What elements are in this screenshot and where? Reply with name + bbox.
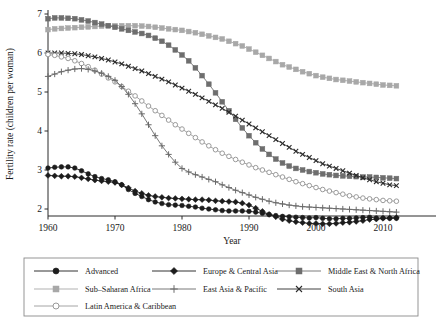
marker-filled-circle — [327, 216, 332, 221]
y-tick-label: 6 — [37, 48, 42, 58]
marker-open-circle — [220, 151, 225, 156]
marker-filled-diamond — [206, 197, 212, 203]
marker-open-circle — [186, 131, 191, 136]
marker-open-circle — [341, 192, 346, 197]
marker-filled-square — [340, 173, 345, 178]
marker-filled-square — [133, 30, 138, 35]
series-layer — [45, 16, 400, 227]
marker-filled-square — [139, 31, 144, 36]
marker-plus — [380, 208, 386, 214]
y-axis-title: Fertility rate (children per woman) — [5, 48, 16, 180]
marker-plus — [266, 198, 272, 204]
marker-open-circle — [59, 55, 64, 60]
marker-filled-square — [186, 58, 191, 63]
marker-filled-diamond — [79, 175, 85, 181]
marker-filled-square — [273, 59, 278, 64]
marker-filled-square — [294, 67, 299, 72]
marker-open-circle — [146, 104, 151, 109]
marker-filled-square — [206, 33, 211, 38]
marker-filled-square — [340, 78, 345, 83]
marker-filled-square — [394, 83, 399, 88]
marker-filled-diamond — [199, 197, 205, 203]
marker-filled-square — [146, 24, 151, 29]
marker-filled-circle — [86, 172, 91, 177]
marker-plus — [239, 190, 245, 196]
marker-filled-diamond — [119, 182, 125, 188]
marker-plus — [367, 207, 373, 213]
marker-filled-square — [106, 23, 111, 28]
marker-filled-square — [200, 73, 205, 78]
marker-plus — [152, 133, 158, 139]
marker-filled-square — [79, 25, 84, 30]
marker-filled-square — [334, 173, 339, 178]
marker-plus — [246, 192, 252, 198]
marker-open-circle — [79, 61, 84, 66]
marker-plus — [206, 176, 212, 182]
marker-open-circle — [253, 165, 258, 170]
y-tick-label: 4 — [37, 126, 42, 136]
marker-filled-diamond — [347, 219, 353, 225]
marker-filled-square — [93, 20, 98, 25]
marker-filled-circle — [160, 201, 165, 206]
marker-filled-square — [52, 16, 57, 21]
marker-filled-circle — [46, 166, 51, 171]
marker-open-circle — [287, 177, 292, 182]
marker-filled-square — [153, 36, 158, 41]
marker-open-circle — [394, 199, 399, 204]
marker-cross — [341, 168, 346, 173]
marker-open-circle — [227, 154, 232, 159]
marker-plus — [52, 71, 58, 77]
marker-filled-diamond — [333, 221, 339, 227]
series-east-asia-pacific — [45, 66, 400, 216]
marker-filled-square — [53, 286, 59, 292]
marker-plus — [373, 208, 379, 214]
marker-filled-square — [387, 83, 392, 88]
marker-filled-square — [287, 65, 292, 70]
marker-filled-square — [387, 176, 392, 181]
marker-plus — [233, 187, 239, 193]
y-tick-label: 2 — [37, 204, 42, 214]
marker-filled-circle — [173, 203, 178, 208]
marker-filled-circle — [207, 207, 212, 212]
marker-plus — [340, 206, 346, 212]
marker-filled-square — [126, 23, 131, 28]
marker-open-circle — [140, 99, 145, 104]
marker-filled-square — [113, 25, 118, 30]
marker-plus — [226, 184, 232, 190]
marker-open-circle — [374, 197, 379, 202]
marker-filled-square — [314, 170, 319, 175]
marker-filled-square — [381, 175, 386, 180]
marker-open-circle — [173, 122, 178, 127]
marker-filled-square — [66, 16, 71, 21]
marker-open-circle — [213, 147, 218, 152]
marker-filled-square — [240, 125, 245, 130]
marker-filled-diamond — [59, 173, 65, 179]
marker-filled-square — [146, 33, 151, 38]
marker-open-circle — [193, 135, 198, 140]
marker-plus — [45, 73, 51, 79]
marker-plus — [132, 101, 138, 107]
marker-filled-diamond — [85, 176, 91, 182]
marker-open-circle — [381, 198, 386, 203]
marker-filled-square — [294, 166, 299, 171]
marker-filled-diamond — [239, 200, 245, 206]
marker-open-circle — [73, 59, 78, 64]
marker-filled-circle — [166, 202, 171, 207]
marker-filled-square — [260, 53, 265, 58]
marker-filled-diamond — [286, 218, 292, 224]
marker-open-circle — [320, 187, 325, 192]
marker-filled-diamond — [52, 173, 58, 179]
marker-open-circle — [46, 52, 51, 57]
marker-filled-square — [327, 76, 332, 81]
marker-plus — [58, 69, 64, 75]
marker-filled-square — [347, 79, 352, 84]
marker-cross — [160, 77, 165, 82]
marker-filled-square — [173, 27, 178, 32]
marker-open-circle — [153, 108, 158, 113]
marker-open-circle — [267, 170, 272, 175]
marker-filled-square — [86, 19, 91, 24]
marker-filled-square — [267, 152, 272, 157]
marker-filled-square — [193, 30, 198, 35]
marker-filled-square — [99, 22, 104, 27]
marker-cross — [153, 74, 158, 79]
